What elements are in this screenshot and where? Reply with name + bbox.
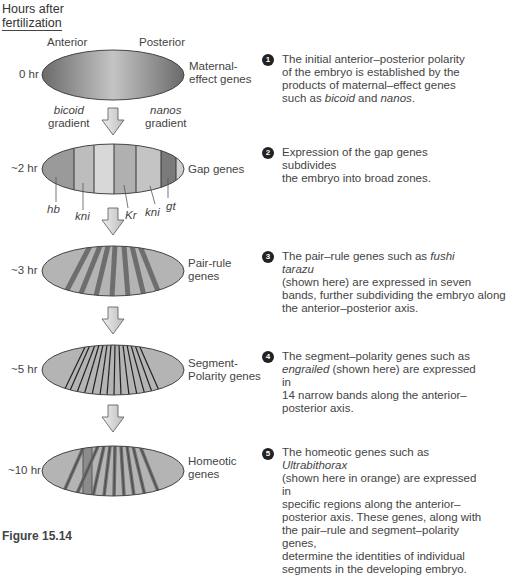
desc-line: of the embryo is established by the [282, 66, 482, 79]
stage-name-line1: Pair-rule [188, 257, 231, 270]
step-description: The initial anterior–posterior polarity … [282, 53, 482, 105]
axis-title: Hours after fertilization [2, 2, 64, 31]
desc-line: determine the identities of individual [282, 550, 487, 563]
figure-caption: Figure 15.14 [2, 529, 72, 543]
time-label: ~2 hr [11, 162, 38, 174]
step-badge: 2 [262, 147, 274, 159]
header-line1: Hours after [2, 2, 64, 16]
stage-name-line2: effect genes [189, 73, 251, 86]
stage-name: Homeotic genes [188, 455, 237, 481]
gradient-text: gradient [145, 117, 187, 130]
step-description: The homeotic genes such as Ultrabithorax… [282, 446, 487, 576]
arrow-down-icon [102, 108, 124, 135]
time-label: ~5 hr [11, 363, 38, 375]
desc-line: specific regions along the anterior– [282, 498, 487, 511]
desc-line: such as bicoid and nanos. [282, 92, 482, 105]
time-label: ~10 hr [8, 464, 41, 476]
stage-name-line2: genes [188, 270, 231, 283]
step-badge: 1 [262, 54, 274, 66]
text: such as [282, 92, 325, 104]
gene-name: engrailed [282, 363, 329, 375]
stage-name-line2: genes [188, 468, 237, 481]
header-line2: fertilization [2, 16, 62, 31]
desc-line: the embryo into broad zones. [282, 172, 482, 185]
gene-label-kr: Kr [125, 209, 137, 222]
embryo-segment-polarity [42, 345, 184, 395]
embryo-maternal [42, 50, 184, 100]
stage-name-line1: Homeotic [188, 455, 237, 468]
text: The homeotic genes such as [282, 446, 429, 458]
desc-line: The initial anterior–posterior polarity [282, 53, 482, 66]
desc-line: (shown here) are expressed in seven [282, 276, 487, 289]
arrow-down-icon [102, 208, 124, 235]
text: The pair–rule genes such as [282, 250, 430, 262]
step-badge: 3 [262, 251, 274, 263]
gene-label-kni: kni [75, 210, 90, 223]
desc-line: the anterior–posterior axis. [282, 302, 487, 315]
stage-name: Maternal- effect genes [189, 60, 251, 86]
embryo-homeotic [42, 446, 184, 496]
desc-line: engrailed (shown here) are expressed in [282, 363, 482, 389]
gene-name: nanos [380, 92, 411, 104]
posterior-label: Posterior [139, 36, 185, 49]
gene-name: bicoid [48, 104, 90, 117]
desc-line: The segment–polarity genes such as [282, 350, 482, 363]
gene-name: nanos [145, 104, 187, 117]
gene-name: Ultrabithorax [282, 459, 347, 471]
desc-line: The pair–rule genes such as fushi tarazu [282, 250, 487, 276]
step-description: The pair–rule genes such as fushi tarazu… [282, 250, 487, 315]
desc-line: segments in the developing embryo. [282, 563, 487, 576]
nanos-gradient-label: nanos gradient [145, 104, 187, 130]
gene-label-hb: hb [47, 203, 60, 216]
bicoid-gradient-label: bicoid gradient [48, 104, 90, 130]
step-badge: 5 [262, 448, 274, 460]
desc-line: posterior axis. These genes, along with [282, 511, 487, 524]
desc-line: bands, further subdividing the embryo al… [282, 289, 487, 302]
gene-label-gt: gt [166, 200, 176, 213]
gene-label-kni: kni [145, 206, 160, 219]
desc-line: 14 narrow bands along the anterior– [282, 389, 482, 402]
step-badge: 4 [262, 351, 274, 363]
stage-name: Gap genes [188, 163, 244, 176]
time-label: 0 hr [19, 68, 39, 80]
stage-name: Segment- Polarity genes [188, 357, 261, 383]
text: . [412, 92, 415, 104]
stage-name: Pair-rule genes [188, 257, 231, 283]
desc-line: products of maternal–effect genes [282, 79, 482, 92]
stage-name-line1: Maternal- [189, 60, 251, 73]
gene-name: bicoid [325, 92, 355, 104]
embryo-pair-rule [42, 246, 184, 296]
time-label: ~3 hr [11, 264, 38, 276]
embryo-gap-genes [42, 144, 184, 210]
stage-name-line1: Segment- [188, 357, 261, 370]
gradient-text: gradient [48, 117, 90, 130]
stage-name-line2: Polarity genes [188, 370, 261, 383]
step-description: The segment–polarity genes such as engra… [282, 350, 482, 415]
desc-line: (shown here in orange) are expressed in [282, 472, 487, 498]
desc-line: posterior axis. [282, 402, 482, 415]
anterior-label: Anterior [47, 36, 87, 49]
step-description: Expression of the gap genes subdivides t… [282, 146, 482, 185]
desc-line: the pair–rule and segment–polarity genes… [282, 524, 487, 550]
arrow-down-icon [102, 405, 124, 432]
text: and [355, 92, 381, 104]
desc-line: Expression of the gap genes subdivides [282, 146, 482, 172]
arrow-down-icon [102, 307, 124, 334]
desc-line: The homeotic genes such as Ultrabithorax [282, 446, 487, 472]
